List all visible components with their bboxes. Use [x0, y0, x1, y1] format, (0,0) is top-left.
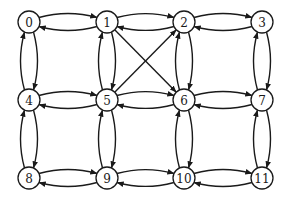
node-label: 7: [258, 94, 266, 108]
node-0: 0: [18, 11, 40, 33]
node-label: 10: [176, 172, 191, 186]
edge-6-to-10: [189, 110, 193, 168]
edge-1-to-0: [39, 27, 97, 31]
edge-1-to-2: [117, 14, 174, 18]
edge-9-to-5: [99, 110, 103, 168]
edge-10-to-9: [117, 183, 174, 187]
edge-4-to-5: [39, 92, 97, 96]
edge-7-to-6: [194, 105, 252, 109]
edge-4-to-8: [34, 110, 38, 168]
edge-5-to-1: [99, 32, 103, 90]
node-label: 1: [103, 16, 111, 30]
edge-layer: [21, 14, 271, 187]
graph-diagram: 01234567891011: [0, 0, 286, 204]
edge-0-to-4: [34, 32, 38, 90]
edge-3-to-7: [267, 32, 271, 90]
edge-9-to-8: [39, 183, 97, 187]
node-label: 2: [180, 16, 188, 30]
edge-8-to-9: [39, 170, 97, 174]
edge-1-to-5: [112, 32, 116, 90]
node-label: 0: [25, 16, 33, 30]
node-label: 4: [25, 94, 33, 108]
edge-5-to-4: [39, 105, 97, 109]
node-11: 11: [251, 167, 273, 189]
edge-4-to-0: [21, 32, 25, 90]
edge-10-to-6: [176, 110, 180, 168]
edge-6-to-7: [194, 92, 252, 96]
node-8: 8: [18, 167, 40, 189]
edge-11-to-10: [194, 183, 252, 187]
node-7: 7: [251, 89, 273, 111]
node-label: 9: [103, 172, 111, 186]
edge-7-to-11: [267, 110, 271, 168]
edge-7-to-3: [254, 32, 258, 90]
edge-11-to-7: [254, 110, 258, 168]
node-10: 10: [173, 167, 195, 189]
node-label: 5: [103, 94, 111, 108]
edge-6-to-5: [117, 105, 174, 109]
edge-5-to-9: [112, 110, 116, 168]
node-label: 11: [254, 172, 269, 186]
node-6: 6: [173, 89, 195, 111]
node-3: 3: [251, 11, 273, 33]
edge-2-to-1: [117, 27, 174, 31]
node-4: 4: [18, 89, 40, 111]
node-5: 5: [96, 89, 118, 111]
node-2: 2: [173, 11, 195, 33]
edge-5-to-6: [117, 92, 174, 96]
edge-2-to-6: [189, 32, 193, 90]
node-layer: 01234567891011: [18, 11, 273, 189]
node-label: 8: [25, 172, 33, 186]
node-9: 9: [96, 167, 118, 189]
edge-3-to-2: [194, 27, 252, 31]
node-label: 6: [180, 94, 188, 108]
edge-6-to-2: [176, 32, 180, 90]
node-1: 1: [96, 11, 118, 33]
edge-2-to-3: [194, 14, 252, 18]
edge-8-to-4: [21, 110, 25, 168]
edge-9-to-10: [117, 170, 174, 174]
edge-10-to-11: [194, 170, 252, 174]
node-label: 3: [258, 16, 266, 30]
edge-0-to-1: [39, 14, 97, 18]
